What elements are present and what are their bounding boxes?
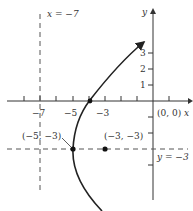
tick-label-m7: −7 xyxy=(32,108,46,118)
y-axis-arrow-icon xyxy=(150,8,156,14)
focus-label: (−3, −3) xyxy=(104,131,143,141)
x-intercept-point xyxy=(88,99,93,104)
x-axis-label: x xyxy=(184,108,189,118)
parabola-diagram: x = −7 y = −3 (−5, −3) (−3, −3) (0, 0) x… xyxy=(0,0,193,211)
y-axis-label: y xyxy=(141,7,148,17)
vertex-label: (−5, −3) xyxy=(22,131,61,141)
tick-label-1: 1 xyxy=(140,80,146,90)
symmetry-label: y = −3 xyxy=(156,152,189,162)
directrix-label: x = −7 xyxy=(47,9,79,19)
vertex-leader xyxy=(62,138,71,147)
parabola-curve xyxy=(73,42,144,211)
tick-label-2: 2 xyxy=(140,64,146,74)
x-axis xyxy=(7,96,193,104)
origin-label: (0, 0) xyxy=(157,108,181,118)
vertex-point xyxy=(70,146,75,151)
tick-label-m5: −5 xyxy=(64,108,78,118)
tick-label-m3: −3 xyxy=(96,108,110,118)
y-axis xyxy=(148,8,156,200)
tick-label-3: 3 xyxy=(140,48,146,58)
focus-point xyxy=(102,146,107,151)
x-axis-arrow-icon xyxy=(188,98,193,104)
